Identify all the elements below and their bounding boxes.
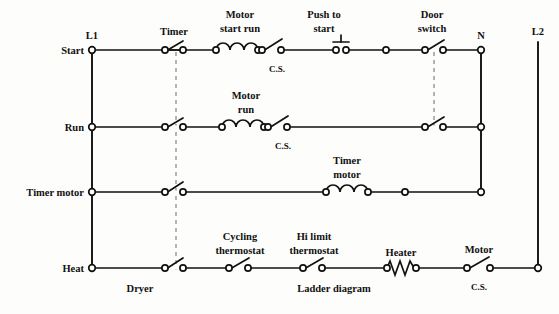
heater-label: Heater (386, 247, 417, 258)
timer-switch-start-terminal-right (180, 47, 186, 53)
cycling-thermostat-label-line1: Cycling (223, 231, 258, 242)
motor-start-run-cs-switch[interactable] (259, 39, 284, 53)
timer-switch-run-terminal-right (180, 124, 186, 130)
rung-run (162, 116, 446, 130)
motor-start-run-cs-terminal-right (278, 47, 284, 53)
push-to-start-label-line1: Push to (307, 9, 341, 20)
motor-cs-heat-terminal-left (464, 265, 470, 271)
rung-heat (162, 257, 493, 275)
timer-motor-coil (323, 185, 371, 195)
hi-limit-thermostat-terminal-right (319, 265, 325, 271)
l1-node-run (89, 124, 96, 131)
l1-node-timer-motor (89, 189, 96, 196)
l2-bus-label: L2 (532, 26, 544, 37)
motor-cs-heat-label: Motor (465, 244, 494, 255)
n-node-start (478, 47, 485, 54)
push-to-start-terminal-right (343, 47, 349, 53)
motor-start-run-cs-label: C.S. (269, 64, 285, 74)
timer-switch-heat[interactable] (162, 258, 186, 271)
timer-switch-heat-terminal-right (180, 265, 186, 271)
motor-run-label-line2: run (238, 104, 255, 115)
door-switch-start-terminal-left (422, 47, 428, 53)
motor-cs-heat-terminal-right (487, 265, 493, 271)
l2-node-heat (535, 265, 542, 272)
motor-cs-switch-heat[interactable] (464, 257, 493, 271)
cycling-thermostat-label-line2: thermostat (216, 245, 265, 256)
rung-label-run: Run (65, 122, 84, 133)
motor-start-run-label-line1: Motor (226, 9, 255, 20)
motor-run-coil-terminal-left (219, 124, 225, 130)
cycling-thermostat-switch[interactable] (226, 258, 251, 271)
push-to-start-terminal-left (333, 47, 339, 53)
timer-switch-start-terminal-left (162, 47, 168, 53)
push-to-start-button[interactable] (333, 35, 349, 53)
timer-switch-heat-terminal-left (162, 265, 168, 271)
motor-start-run-label-line2: start run (220, 23, 260, 34)
door-switch-start-terminal-right (440, 47, 446, 53)
motor-run-coil (219, 120, 267, 130)
timer-switch-label: Timer (160, 26, 188, 37)
door-switch-run-terminal-right (440, 124, 446, 130)
hi-limit-thermostat-switch[interactable] (300, 258, 325, 271)
timer-switch-timermotor-terminal-right (180, 189, 186, 195)
n-node-run (478, 124, 485, 131)
timer-motor-rung-junction-node (402, 189, 408, 195)
motor-run-cs-switch[interactable] (265, 116, 290, 130)
rung-timer-motor (162, 182, 408, 195)
n-bus-label: N (477, 30, 485, 41)
rung-label-heat: Heat (62, 263, 84, 274)
motor-start-run-cs-terminal-left (259, 47, 265, 53)
ladder-diagram-canvas: L1 N L2 Start Run Timer motor Heat Timer… (0, 0, 559, 314)
cycling-thermostat-terminal-right (245, 265, 251, 271)
motor-run-cs-terminal-right (284, 124, 290, 130)
hi-limit-thermostat-terminal-left (300, 265, 306, 271)
motor-start-run-coil (213, 43, 261, 53)
l1-bus-label: L1 (86, 30, 98, 41)
cycling-thermostat-terminal-left (226, 265, 232, 271)
door-switch-start[interactable] (422, 40, 446, 53)
motor-run-cs-label: C.S. (275, 141, 291, 151)
caption-dryer: Dryer (127, 283, 154, 294)
timer-switch-timermotor-terminal-left (162, 189, 168, 195)
rung-label-start: Start (61, 45, 84, 56)
heater-terminal-right (413, 265, 419, 271)
motor-cs-heat-sublabel: C.S. (471, 282, 487, 292)
hi-limit-thermostat-label-line1: Hi limit (297, 231, 332, 242)
rung-label-timer-motor: Timer motor (26, 187, 84, 198)
hi-limit-thermostat-label-line2: thermostat (290, 245, 339, 256)
motor-start-run-coil-terminal-left (213, 47, 219, 53)
door-switch-label-line2: switch (418, 23, 447, 34)
caption-ladder-diagram: Ladder diagram (297, 283, 371, 294)
heater-terminal-left (384, 265, 390, 271)
n-node-timer-motor (478, 189, 485, 196)
timer-switch-start[interactable] (162, 41, 186, 53)
l1-node-start (89, 47, 96, 54)
heater-element (384, 261, 419, 275)
timer-motor-coil-label-line2: motor (333, 169, 361, 180)
timer-switch-run-terminal-left (162, 124, 168, 130)
motor-run-cs-terminal-left (265, 124, 271, 130)
timer-motor-coil-terminal-left (323, 189, 329, 195)
timer-motor-coil-label-line1: Timer (333, 155, 361, 166)
start-rung-junction-node (383, 47, 389, 53)
timer-switch-timermotor[interactable] (162, 182, 186, 195)
push-to-start-label-line2: start (314, 23, 335, 34)
door-switch-run-terminal-left (422, 124, 428, 130)
l1-node-heat (89, 265, 96, 272)
ladder-diagram-svg: L1 N L2 Start Run Timer motor Heat Timer… (0, 0, 559, 314)
motor-run-label-line1: Motor (232, 90, 261, 101)
door-switch-label-line1: Door (421, 9, 444, 20)
timer-motor-coil-terminal-right (365, 189, 371, 195)
timer-switch-run[interactable] (162, 118, 186, 130)
